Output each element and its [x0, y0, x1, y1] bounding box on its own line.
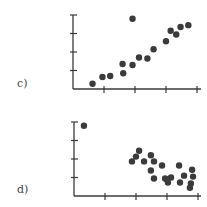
data-point	[150, 46, 156, 52]
panel-label-c: c)	[17, 78, 27, 89]
data-point	[176, 162, 182, 168]
data-point	[187, 184, 193, 190]
data-point	[151, 175, 157, 181]
data-point	[148, 167, 154, 173]
data-point	[148, 152, 154, 158]
data-point	[185, 22, 191, 28]
data-point	[133, 153, 139, 159]
data-point	[120, 70, 126, 76]
data-point	[99, 74, 105, 80]
data-point	[89, 81, 95, 87]
data-point	[136, 54, 142, 60]
data-point	[107, 73, 113, 79]
data-point	[173, 31, 179, 37]
data-point	[81, 123, 87, 129]
data-point	[144, 55, 150, 61]
data-point	[164, 176, 170, 182]
data-point	[129, 16, 135, 22]
data-point	[136, 147, 142, 153]
data-point	[177, 179, 183, 185]
scatter-figure	[0, 0, 207, 207]
data-point	[151, 158, 157, 164]
data-point	[177, 24, 183, 30]
scatter-plot-d	[71, 122, 201, 200]
data-point	[129, 62, 135, 68]
data-point	[189, 167, 195, 173]
panel-label-d: d)	[17, 184, 28, 195]
data-point	[141, 158, 147, 164]
data-point	[181, 172, 187, 178]
data-point	[163, 38, 169, 44]
scatter-plot-c	[70, 15, 201, 93]
data-point	[159, 162, 165, 168]
data-point	[119, 61, 125, 67]
data-point	[190, 173, 196, 179]
data-point	[167, 28, 173, 34]
